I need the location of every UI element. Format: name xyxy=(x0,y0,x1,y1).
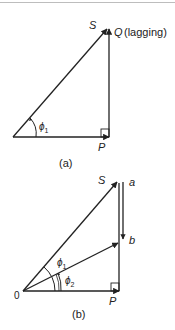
label-phi2-b: ϕ2 xyxy=(65,275,75,288)
right-angle-mark-a xyxy=(101,129,109,137)
label-q-note-a: (lagging) xyxy=(124,26,167,38)
label-s-a: S xyxy=(89,19,97,31)
right-angle-mark-b xyxy=(111,283,119,291)
label-p-a: P xyxy=(98,141,106,153)
label-q-a: Q xyxy=(114,26,123,38)
label-origin-b: 0 xyxy=(14,290,20,301)
caption-b: (b) xyxy=(72,308,85,320)
angle-arc-phi1-a xyxy=(30,118,36,137)
label-b-b: b xyxy=(129,234,135,246)
caption-a: (a) xyxy=(59,157,72,169)
label-a-b: a xyxy=(129,176,135,188)
angle-arc-phi2-inner-b xyxy=(56,274,59,291)
label-p-b: P xyxy=(109,295,117,307)
diagram-b: S a b 0 P ϕ1 ϕ2 (b) xyxy=(14,174,135,320)
power-triangle-diagrams: S Q (lagging) P ϕ1 (a) S a b 0 P ϕ1 ϕ2 (… xyxy=(0,0,175,330)
s-vector-a xyxy=(13,29,107,137)
label-s-b: S xyxy=(98,174,106,186)
label-phi1-a: ϕ1 xyxy=(39,121,49,134)
diagram-a: S Q (lagging) P ϕ1 (a) xyxy=(13,19,167,169)
label-phi1-b: ϕ1 xyxy=(57,257,67,270)
